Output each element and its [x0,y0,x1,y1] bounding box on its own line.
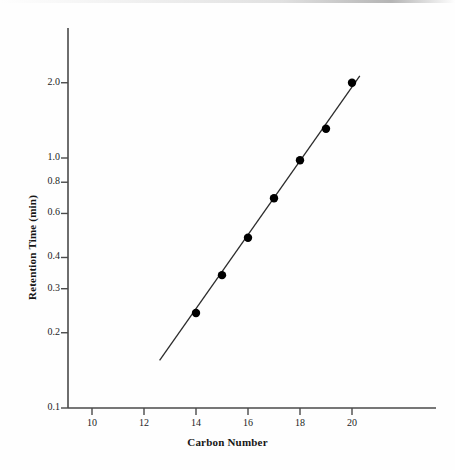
y-axis-ticks [61,83,68,408]
data-point-marker [218,271,226,279]
data-point-marker [192,309,200,317]
figure-canvas: Retention Time (min) Carbon Number 0.10.… [0,0,455,470]
trend-line [160,76,360,361]
x-axis-title: Carbon Number [0,436,455,448]
y-tick-label: 2.0 [22,76,60,87]
y-tick-label: 0.1 [22,401,60,412]
data-point-marker [322,124,330,132]
y-tick-label: 0.6 [22,206,60,217]
x-tick-label: 14 [176,417,216,428]
data-point-marker [244,233,252,241]
y-tick-label: 1.0 [22,151,60,162]
data-point-marker [270,194,278,202]
x-tick-label: 16 [228,417,268,428]
fit-line-segment [160,76,360,361]
y-tick-label: 0.8 [22,175,60,186]
x-tick-label: 18 [280,417,320,428]
chart-plot-area [0,0,455,470]
y-tick-label: 0.3 [22,282,60,293]
x-tick-label: 20 [332,417,372,428]
data-point-marker [348,79,356,87]
x-axis-ticks [92,408,352,415]
x-tick-label: 10 [72,417,112,428]
data-points [192,79,356,318]
data-point-marker [296,156,304,164]
y-tick-label: 0.4 [22,250,60,261]
x-tick-label: 12 [124,417,164,428]
y-tick-label: 0.2 [22,326,60,337]
